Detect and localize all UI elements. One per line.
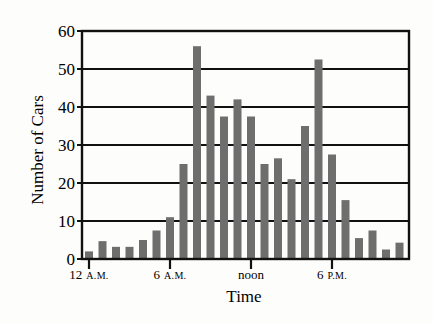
bar bbox=[247, 117, 255, 260]
y-tick-label: 30 bbox=[58, 136, 75, 155]
y-tick-label: 60 bbox=[58, 22, 75, 41]
bar bbox=[166, 217, 174, 259]
bar bbox=[126, 247, 134, 259]
x-tick-label: 6P.M. bbox=[317, 267, 347, 282]
bar bbox=[355, 238, 363, 259]
bar bbox=[261, 164, 269, 259]
bar bbox=[315, 60, 323, 260]
x-axis-ticks: 12A.M.6A.M.noon6P.M. bbox=[69, 259, 347, 282]
bar bbox=[382, 250, 390, 260]
bar bbox=[220, 117, 228, 260]
x-tick-label: noon bbox=[238, 267, 265, 282]
bar bbox=[180, 164, 188, 259]
x-tick-label: 12A.M. bbox=[69, 267, 108, 282]
bar bbox=[342, 200, 350, 259]
bar bbox=[112, 247, 120, 259]
x-axis-title: Time bbox=[226, 287, 261, 306]
bar bbox=[301, 126, 309, 259]
bar bbox=[99, 241, 107, 259]
x-tick-label: 6A.M. bbox=[154, 267, 187, 282]
bar bbox=[369, 231, 377, 260]
y-tick-label: 20 bbox=[58, 174, 75, 193]
bar bbox=[153, 231, 161, 260]
bar bbox=[207, 96, 215, 259]
bar bbox=[234, 99, 242, 259]
y-axis-title: Number of Cars bbox=[28, 95, 47, 205]
y-axis-ticks: 0102030405060 bbox=[58, 22, 82, 269]
bar bbox=[328, 155, 336, 260]
bar bbox=[139, 240, 147, 259]
bar bbox=[288, 179, 296, 259]
y-tick-label: 50 bbox=[58, 60, 75, 79]
bar-chart: 0102030405060 12A.M.6A.M.noon6P.M. Time … bbox=[0, 0, 433, 324]
bar bbox=[396, 243, 404, 259]
y-tick-label: 10 bbox=[58, 212, 75, 231]
bar bbox=[274, 158, 282, 259]
bar bbox=[193, 46, 201, 259]
gridlines bbox=[82, 69, 409, 221]
y-tick-label: 40 bbox=[58, 98, 75, 117]
bars bbox=[85, 46, 404, 259]
